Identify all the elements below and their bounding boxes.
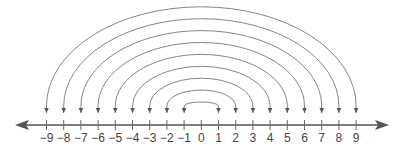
tick-label: 7	[318, 131, 325, 145]
tick-label: −6	[91, 131, 105, 145]
arrowhead-icon	[285, 108, 290, 113]
arrowhead-icon	[302, 108, 307, 113]
arc-5-to-5	[115, 54, 287, 113]
tick-label: −3	[143, 131, 157, 145]
arc-3-to-3	[150, 78, 253, 113]
arrowhead-icon	[130, 108, 135, 113]
tick-label: −5	[108, 131, 122, 145]
tick-label: 4	[267, 131, 274, 145]
tick-label: 5	[284, 131, 291, 145]
arrowhead-icon	[337, 108, 342, 113]
arc-7-to-7	[81, 31, 322, 113]
tick-label: −9	[40, 131, 54, 145]
tick-label: −1	[177, 131, 191, 145]
arrowhead-icon	[165, 108, 170, 113]
tick-label: −2	[160, 131, 174, 145]
tick-label: 6	[301, 131, 308, 145]
tick-label: 3	[250, 131, 257, 145]
arrowhead-icon	[61, 108, 66, 113]
arrowhead-icon	[354, 108, 359, 113]
tick-label: −7	[74, 131, 88, 145]
arc-1-to-1	[184, 102, 218, 113]
tick-label: −4	[126, 131, 140, 145]
arrowhead-icon	[147, 108, 152, 113]
arrowhead-icon	[216, 108, 221, 113]
arc-9-to-9	[47, 7, 357, 113]
arc-4-to-4	[133, 66, 271, 113]
tick-labels: −9−8−7−6−5−4−3−2−10123456789	[40, 131, 360, 145]
arrowhead-icon	[182, 108, 187, 113]
arrowhead-icon	[44, 108, 49, 113]
arrowhead-icon	[233, 108, 238, 113]
arrowhead-icon	[79, 108, 84, 113]
tick-label: 2	[232, 131, 239, 145]
tick-label: −8	[57, 131, 71, 145]
arrowhead-icon	[96, 108, 101, 113]
arc-2-to-2	[167, 90, 236, 113]
tick-label: 1	[215, 131, 222, 145]
tick-label: 9	[353, 131, 360, 145]
arrowhead-icon	[113, 108, 118, 113]
number-line-diagram: −9−8−7−6−5−4−3−2−10123456789	[0, 0, 403, 150]
arrowhead-icon	[319, 108, 324, 113]
arrowhead-icon	[268, 108, 273, 113]
arrowhead-icon	[251, 108, 256, 113]
opposite-number-arcs	[44, 7, 358, 113]
number-line-axis	[15, 120, 389, 130]
tick-label: 0	[198, 131, 205, 145]
tick-label: 8	[336, 131, 343, 145]
